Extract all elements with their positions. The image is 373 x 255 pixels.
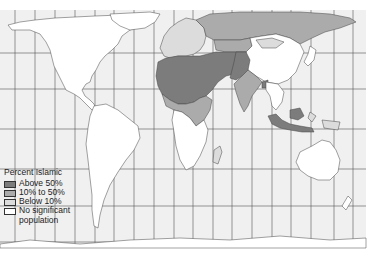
swatch-medium-icon [4, 190, 16, 197]
swatch-white-icon [4, 208, 16, 215]
legend-title: Percent Islamic [4, 168, 70, 178]
legend: Percent Islamic Above 50% 10% to 50% Bel… [4, 168, 70, 225]
legend-label-cont: population [4, 216, 70, 226]
swatch-dark-icon [4, 181, 16, 188]
swatch-light-icon [4, 199, 16, 206]
central-asia [214, 38, 252, 52]
